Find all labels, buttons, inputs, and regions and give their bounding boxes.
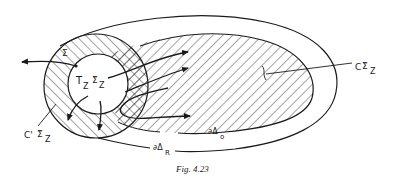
- label-c-prime-sigma: Σ̃: [37, 129, 43, 139]
- label-c-prime-sub: Z: [45, 135, 51, 144]
- figure-4-23: Σ T Z Σ̃ Z C' Σ̃ Z C Σ̃ Z ∂Δ o ∂Δ R Fig.…: [0, 0, 393, 185]
- label-tangent-sub: Z: [83, 82, 89, 91]
- label-boundary-o-sub: o: [220, 133, 224, 141]
- label-c-sigma: Σ̃: [362, 61, 368, 71]
- label-c-prime: C': [24, 130, 33, 140]
- label-c: C: [355, 62, 361, 72]
- label-sigma: Σ: [62, 48, 68, 58]
- point-z: [74, 64, 77, 67]
- label-sigma-tilde: Σ̃: [92, 75, 98, 85]
- label-boundary-o: ∂Δ: [208, 127, 218, 136]
- figure-caption: Fig. 4.23: [175, 164, 209, 174]
- label-boundary-R-sub: R: [165, 149, 170, 157]
- label-boundary-R: ∂Δ: [153, 143, 163, 152]
- label-tangent: T: [75, 75, 83, 86]
- label-sigma-tilde-sub: Z: [99, 81, 105, 90]
- label-c-sub: Z: [370, 67, 376, 76]
- outer-boundary-dR-left: [98, 138, 150, 148]
